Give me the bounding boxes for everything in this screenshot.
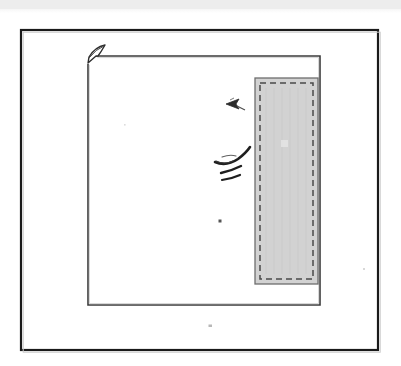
dash-annotation-marks <box>221 166 241 180</box>
figure-page: Scanned line drawing <box>0 0 401 366</box>
shaded-panel-smudge <box>281 140 288 147</box>
ink-speck-faint-mid <box>124 124 126 126</box>
corner-flap-icon <box>88 45 105 63</box>
hook-stroke-annotation <box>215 147 250 164</box>
ink-speck-lower <box>209 325 213 328</box>
outer-border-frame <box>21 30 378 350</box>
shaded-hatched-panel <box>255 78 318 284</box>
ink-speck-faint-right <box>363 268 365 270</box>
ink-speck-upper <box>219 220 222 223</box>
arrow-annotation-icon <box>226 98 245 110</box>
line-drawing-canvas <box>0 0 401 366</box>
shaded-panel-fill <box>255 78 318 284</box>
